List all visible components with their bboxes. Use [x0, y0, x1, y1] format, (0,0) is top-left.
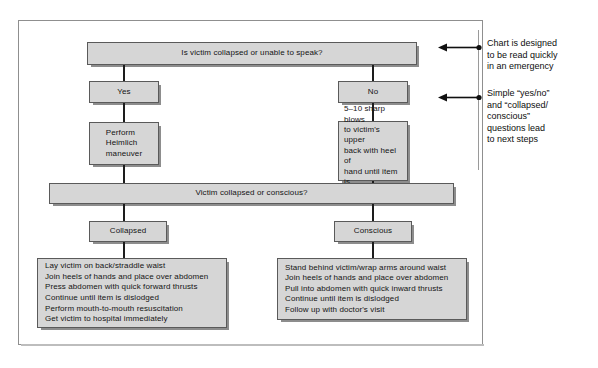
annotation-2-arrow	[438, 93, 482, 102]
node-collapsed-steps[interactable]: Lay victim on back/straddle waist Join h…	[37, 258, 227, 328]
annotation-2-text: Simple “yes/no” and “collapsed/ consciou…	[487, 88, 597, 146]
node-collapsed[interactable]: Collapsed	[89, 221, 167, 242]
node-question-1[interactable]: Is victim collapsed or unable to speak?	[87, 42, 417, 65]
node-yes[interactable]: Yes	[89, 81, 159, 103]
node-question-2[interactable]: Victim collapsed or conscious?	[49, 183, 454, 204]
node-perform-heimlich[interactable]: Perform Heimlich maneuver	[89, 122, 159, 165]
connector-conscious-to-steps	[372, 242, 374, 258]
connector-q1-to-no	[372, 65, 374, 81]
connector-yes-to-heimlich	[123, 103, 125, 122]
connector-question-2-to-collapsed	[123, 204, 125, 221]
node-back-blows[interactable]: 5–10 sharp blows to victim's upper back …	[338, 121, 408, 181]
connector-q1-to-yes	[123, 65, 125, 81]
node-conscious[interactable]: Conscious	[334, 221, 412, 242]
connector-heimlich-to-question-2	[123, 165, 125, 183]
node-no[interactable]: No	[338, 81, 408, 103]
annotation-1-arrow	[438, 43, 482, 52]
node-conscious-steps[interactable]: Stand behind victim/wrap arms around wai…	[277, 258, 467, 320]
annotation-1-text: Chart is designed to be read quickly in …	[487, 38, 597, 73]
chart-frame: Is victim collapsed or unable to speak? …	[18, 20, 483, 345]
connector-collapsed-to-steps	[123, 242, 125, 258]
connector-question-2-to-conscious	[372, 204, 374, 221]
